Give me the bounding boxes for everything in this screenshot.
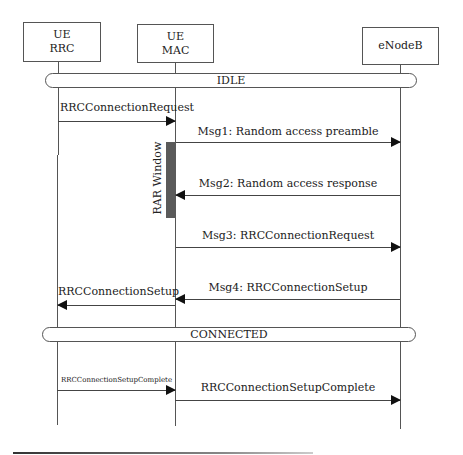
participant-ue-rrc-line2: RRC [50,42,75,55]
participant-enodeb-label: eNodeB [378,39,422,53]
message-label-msg3: Msg3: RRCConnectionRequest [176,229,400,242]
participant-enodeb: eNodeB [362,27,439,65]
participant-ue-mac-line1: UE [167,30,184,43]
participant-ue-rrc-line1: UE [53,28,70,41]
message-label-msg4: Msg4: RRCConnectionSetup [176,281,400,294]
message-arrow-msg3 [176,247,400,248]
message-label-rrc-connection-setup: RRCConnectionSetup [58,285,175,298]
message-arrow-rrc-connection-setup [58,305,175,306]
state-connected-label: CONNECTED [190,328,267,341]
participant-ue-mac: UEMAC [137,24,214,63]
bottom-divider [13,452,313,454]
message-arrow-rrc-setup-complete-internal [57,390,175,391]
message-label-msg2: Msg2: Random access response [176,177,400,190]
rar-window-label: RAR Window [151,145,164,215]
message-arrow-rrc-connection-request [58,121,175,122]
state-idle: IDLE [45,73,417,88]
rar-window-bar [166,142,176,218]
message-arrow-msg4 [176,299,400,300]
message-arrow-msg1 [176,142,400,143]
state-idle-label: IDLE [217,74,246,87]
message-arrow-rrc-setup-complete [175,400,400,401]
message-label-rrc-connection-request: RRCConnectionRequest [60,101,175,114]
state-connected: CONNECTED [42,327,416,342]
message-label-rrc-setup-complete-internal: RRCConnectionSetupComplete [58,376,175,384]
participant-ue-mac-line2: MAC [162,44,190,57]
participant-ue-rrc: UERRC [23,22,101,62]
message-arrow-msg2 [176,195,400,196]
message-label-rrc-setup-complete: RRCConnectionSetupComplete [176,381,400,394]
message-label-msg1: Msg1: Random access preamble [176,125,400,138]
